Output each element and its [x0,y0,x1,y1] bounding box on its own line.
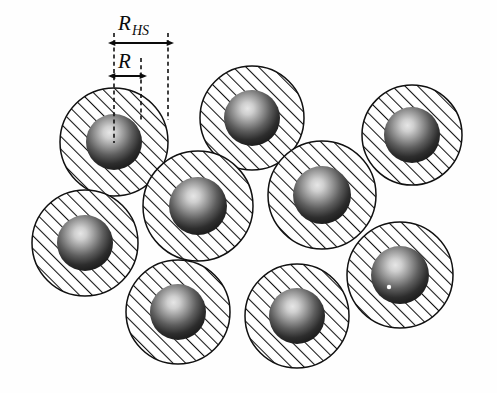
particle-core [371,246,429,304]
r-hs-label-base: R [117,11,131,35]
particle-core [269,288,325,344]
particle-core [293,166,351,224]
figure-root: R HS R [0,0,497,393]
r-hs-label-subscript: HS [131,23,149,38]
particle-core [150,284,206,340]
r-label-base: R [117,49,131,73]
particle-core [224,90,280,146]
particle-core [169,177,227,235]
particle-core [57,215,113,271]
particle-core-speck [387,285,391,289]
particle-core [384,107,440,163]
hard-sphere-diagram: R HS R [0,0,497,393]
